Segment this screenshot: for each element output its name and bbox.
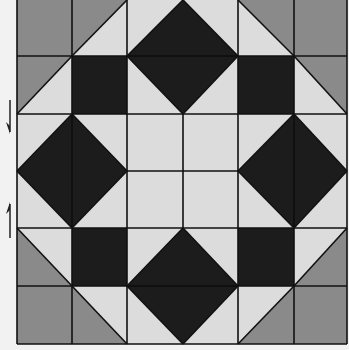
dark-square <box>72 56 127 114</box>
corner-square <box>294 0 347 56</box>
arrow-down-icon <box>2 98 16 136</box>
quilt-block <box>0 0 349 350</box>
corner-square <box>294 286 347 344</box>
corner-square <box>17 0 72 56</box>
corner-square <box>17 286 72 344</box>
arrow-up-icon <box>2 200 16 240</box>
dark-square <box>72 228 127 286</box>
dark-square <box>238 56 294 114</box>
dark-square <box>238 228 294 286</box>
